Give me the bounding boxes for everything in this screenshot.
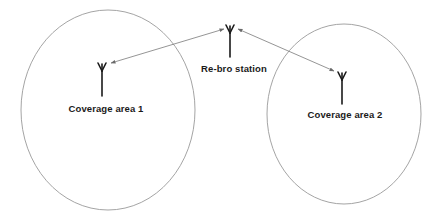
antenna-icon	[226, 25, 234, 57]
link-arrow-rebro-to-area1	[111, 29, 224, 63]
antenna-icon	[98, 63, 106, 96]
rebro-station-label: Re-bro station	[201, 63, 267, 74]
coverage-area-2-label: Coverage area 2	[308, 109, 383, 120]
relay-coverage-diagram: Re-bro station Coverage area 1 Coverage …	[0, 0, 438, 218]
antenna-icon	[338, 72, 346, 104]
coverage-area-1-label: Coverage area 1	[69, 103, 144, 114]
